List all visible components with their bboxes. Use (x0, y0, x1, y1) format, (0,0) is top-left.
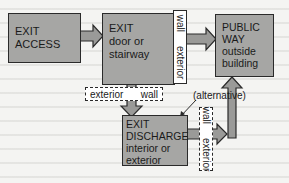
exit-box: EXIT door or stairway (102, 13, 175, 85)
exit-label-3: stairway (109, 48, 168, 61)
exit-access-box: EXIT ACCESS (8, 13, 81, 63)
exit-access-label-2: ACCESS (15, 38, 74, 51)
alternative-label: (alternative) (193, 90, 246, 101)
wall-top-word-exterior: exterior (175, 46, 186, 79)
public-way-label-3: outside (222, 45, 267, 57)
exterior-wall-top: wall exterior (173, 10, 187, 84)
wall-bottom-word-exterior: exterior (201, 138, 212, 171)
exterior-wall-middle: exterior wall (85, 87, 163, 101)
exit-discharge-label-3: interior or (126, 142, 184, 154)
public-way-box: PUBLIC WAY outside building (215, 14, 274, 77)
exterior-wall-bottom: wall exterior (199, 107, 213, 171)
exit-label-1: EXIT (109, 22, 168, 35)
public-way-label-4: building (222, 57, 267, 69)
wall-middle-word-wall: wall (141, 89, 158, 100)
wall-bottom-word-wall: wall (201, 107, 212, 124)
public-way-label-2: WAY (222, 33, 267, 45)
public-way-label-1: PUBLIC (222, 21, 267, 33)
arrow-exit-access-to-exit (80, 25, 103, 47)
exit-access-label-1: EXIT (15, 25, 74, 38)
wall-middle-word-exterior: exterior (90, 89, 123, 100)
exit-label-2: door or (109, 35, 168, 48)
wall-top-word-wall: wall (175, 15, 186, 32)
exit-discharge-box: EXIT DISCHARGE interior or exterior (122, 115, 188, 166)
arrow-up-to-public-way (222, 77, 242, 138)
exit-discharge-label-2: DISCHARGE (126, 130, 184, 142)
exit-discharge-label-1: EXIT (126, 118, 184, 130)
exit-discharge-label-4: exterior (126, 154, 184, 166)
